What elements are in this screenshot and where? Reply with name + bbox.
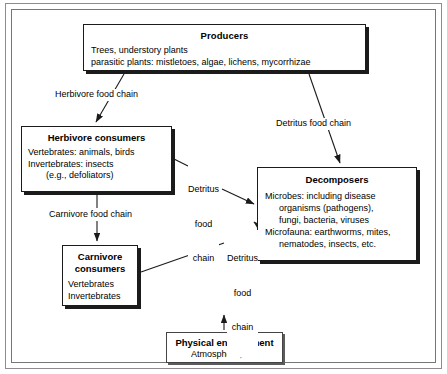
node-carnivore-line-2: Invertebrates: [68, 291, 137, 303]
node-carnivore-line-1: Vertebrates: [68, 279, 137, 291]
node-carnivore-title-line-1: Carnivore: [63, 251, 137, 263]
node-herbivore-consumers-body: Vertebrates: animals, birds Invertebrate…: [22, 143, 171, 182]
node-producers: Producers Trees, understory plants paras…: [83, 24, 366, 71]
edge-label-detritus-food-chain-top: Detritus food chain: [276, 118, 351, 130]
node-producers-title: Producers: [84, 25, 365, 41]
node-physical-environment-body: Atmosphere, soil: [167, 348, 282, 359]
node-physical-environment: Physical environment Atmosphere, soil: [166, 332, 283, 363]
edge-label-detritus-low-line-3: chain: [227, 322, 258, 334]
edge-label-herbivore-food-chain: Herbivore food chain: [55, 89, 138, 101]
node-producers-line-2: parasitic plants: mistletoes, algae, lic…: [91, 57, 365, 69]
node-decomposers-line-3: fungi, bacteria, viruses: [265, 214, 416, 226]
node-carnivore-consumers-title: Carnivore consumers: [63, 246, 137, 274]
node-carnivore-title-line-2: consumers: [63, 263, 137, 275]
ecosystem-food-web-diagram: Producers Trees, understory plants paras…: [0, 0, 447, 374]
edge-label-detritus-low-line-1: Detritus: [227, 253, 258, 265]
node-decomposers-line-1: Microbes: including disease: [265, 190, 416, 202]
node-decomposers-line-4: Microfauna: earthworms, mites,: [265, 226, 416, 238]
node-decomposers-line-2: organisms (pathogens),: [265, 202, 416, 214]
node-decomposers-body: Microbes: including disease organisms (p…: [258, 185, 416, 250]
arrow-herbivore-to-decomposers-stub: [174, 159, 188, 166]
arrow-herbivore-to-decomposers: [222, 189, 254, 204]
node-physical-environment-title: Physical environment: [167, 333, 282, 348]
node-herbivore-consumers: Herbivore consumers Vertebrates: animals…: [21, 126, 172, 192]
edge-label-carnivore-food-chain: Carnivore food chain: [49, 209, 132, 221]
node-herbivore-line-3: (e.g., defoliators): [28, 170, 171, 182]
node-decomposers-title: Decomposers: [258, 168, 416, 185]
node-decomposers-line-5: nematodes, insects, etc.: [265, 238, 416, 250]
node-producers-line-1: Trees, understory plants: [91, 45, 365, 57]
edge-label-detritus-mid-line-2: food: [188, 219, 219, 231]
edge-label-detritus-mid-line-3: chain: [188, 253, 219, 265]
node-carnivore-consumers-body: Vertebrates Invertebrates: [63, 274, 137, 302]
edge-label-detritus-mid-line-1: Detritus: [188, 184, 219, 196]
node-carnivore-consumers: Carnivore consumers Vertebrates Inverteb…: [62, 245, 138, 306]
edge-label-detritus-food-chain-lower: Detritus food chain: [227, 230, 258, 357]
edge-label-detritus-food-chain-middle: Detritus food chain: [188, 161, 219, 288]
edge-label-detritus-low-line-2: food: [227, 288, 258, 300]
node-producers-body: Trees, understory plants parasitic plant…: [84, 41, 365, 68]
node-herbivore-consumers-title: Herbivore consumers: [22, 127, 171, 143]
node-herbivore-line-2: Invertebrates: insects: [28, 159, 171, 171]
node-decomposers: Decomposers Microbes: including disease …: [257, 167, 417, 261]
node-herbivore-line-1: Vertebrates: animals, birds: [28, 147, 171, 159]
